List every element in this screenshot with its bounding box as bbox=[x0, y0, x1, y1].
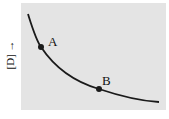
curve-graphic bbox=[0, 0, 169, 119]
decay-curve bbox=[28, 14, 159, 102]
point-a-marker bbox=[38, 44, 44, 50]
point-a-label: A bbox=[48, 34, 57, 50]
point-b-label: B bbox=[102, 73, 111, 89]
